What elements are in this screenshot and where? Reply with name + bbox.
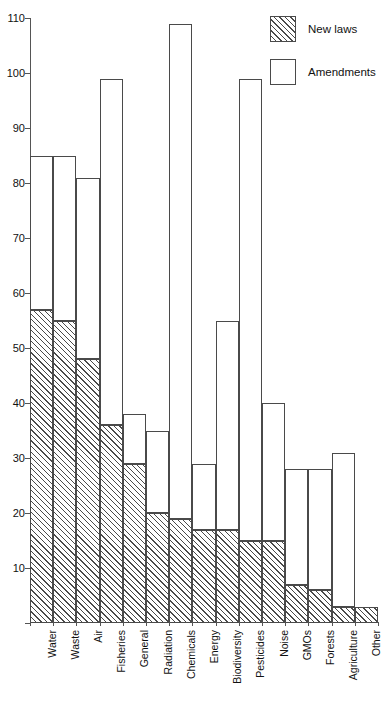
bar-segment-new-laws[interactable] xyxy=(100,425,123,623)
x-axis-category-label-text: Water xyxy=(46,630,58,658)
bar-segment-amendments[interactable] xyxy=(192,464,215,530)
bar-segment-amendments[interactable] xyxy=(285,469,308,585)
x-axis-tick-mark xyxy=(308,622,309,626)
bar-segment-new-laws[interactable] xyxy=(192,530,215,624)
x-axis-category-label-text: Agriculture xyxy=(347,630,359,680)
bar-segment-new-laws[interactable] xyxy=(123,464,146,624)
bar-segment-amendments[interactable] xyxy=(30,156,53,310)
bar-segment-amendments[interactable] xyxy=(146,431,169,514)
x-axis-tick-mark xyxy=(100,622,101,626)
x-axis-category-label-text: GMOs xyxy=(301,630,313,660)
bar-segment-amendments[interactable] xyxy=(332,453,355,607)
x-axis-category-label: Forests xyxy=(324,630,336,665)
stacked-bar-chart: 102030405060708090100110 WaterWasteAirFi… xyxy=(0,0,384,721)
bar-segment-amendments[interactable] xyxy=(123,414,146,464)
bar-group[interactable] xyxy=(169,18,192,623)
x-axis-tick-mark xyxy=(76,622,77,626)
bar-segment-new-laws[interactable] xyxy=(169,519,192,624)
legend-item-amendments: Amendments xyxy=(270,59,380,85)
x-axis-category-label-text: Fisheries xyxy=(115,630,127,673)
x-axis-category-label: Water xyxy=(46,630,58,658)
bar-group[interactable] xyxy=(100,18,123,623)
bar-segment-amendments[interactable] xyxy=(169,24,192,519)
bar-group[interactable] xyxy=(30,18,53,623)
bar-group[interactable] xyxy=(285,18,308,623)
x-axis-category-label: Air xyxy=(92,630,104,643)
bar-segment-new-laws[interactable] xyxy=(216,530,239,624)
x-axis-tick-mark xyxy=(285,622,286,626)
bar-group[interactable] xyxy=(216,18,239,623)
y-axis-tick-label: 60 xyxy=(13,287,25,299)
x-axis-tick-mark xyxy=(332,622,333,626)
x-axis-category-label-text: Waste xyxy=(69,630,81,659)
bar-group[interactable] xyxy=(262,18,285,623)
bar-segment-new-laws[interactable] xyxy=(355,607,378,624)
empty-square-icon xyxy=(270,59,296,85)
bar-segment-new-laws[interactable] xyxy=(53,321,76,624)
bar-segment-new-laws[interactable] xyxy=(146,513,169,623)
bar-segment-amendments[interactable] xyxy=(308,469,331,590)
legend-item-label: New laws xyxy=(308,23,357,35)
x-axis-tick-mark xyxy=(123,622,124,626)
y-axis-tick-label: 110 xyxy=(7,12,25,24)
bar-segment-amendments[interactable] xyxy=(100,79,123,426)
bar-segment-amendments[interactable] xyxy=(216,321,239,530)
x-axis-category-label: Agriculture xyxy=(347,630,359,680)
x-axis-category-label-text: Noise xyxy=(278,630,290,657)
bar-group[interactable] xyxy=(146,18,169,623)
y-axis-tick-label: 20 xyxy=(13,507,25,519)
bar-group[interactable] xyxy=(76,18,99,623)
y-axis-tick-label: 80 xyxy=(13,177,25,189)
x-axis-category-label-text: Air xyxy=(92,630,104,643)
x-axis-category-label-text: Pesticides xyxy=(254,630,266,678)
y-axis-tick-label: 90 xyxy=(13,122,25,134)
x-axis-tick-mark xyxy=(378,622,379,626)
bar-group[interactable] xyxy=(123,18,146,623)
x-axis-tick-mark xyxy=(239,622,240,626)
x-axis-tick-mark xyxy=(192,622,193,626)
bar-group[interactable] xyxy=(308,18,331,623)
x-axis-category-label: General xyxy=(138,630,150,667)
bar-segment-new-laws[interactable] xyxy=(285,585,308,624)
x-axis-category-label-text: General xyxy=(138,630,150,667)
bar-segment-amendments[interactable] xyxy=(262,403,285,541)
bar-segment-new-laws[interactable] xyxy=(262,541,285,624)
x-axis-category-label-text: Chemicals xyxy=(185,630,197,679)
x-axis-category-label: Other xyxy=(370,630,382,656)
x-axis-category-label-text: Forests xyxy=(324,630,336,665)
x-axis-category-label: Waste xyxy=(69,630,81,659)
bar-segment-new-laws[interactable] xyxy=(308,590,331,623)
bar-group[interactable] xyxy=(239,18,262,623)
x-axis-category-label-text: Other xyxy=(370,630,382,656)
bar-group[interactable] xyxy=(53,18,76,623)
x-axis-tick-mark xyxy=(355,622,356,626)
bar-segment-new-laws[interactable] xyxy=(30,310,53,624)
bars-container xyxy=(30,18,378,623)
bar-segment-new-laws[interactable] xyxy=(332,607,355,624)
y-axis-tick-label: 100 xyxy=(7,67,25,79)
x-axis-category-label: Pesticides xyxy=(254,630,266,678)
bar-group[interactable] xyxy=(355,18,378,623)
legend-item-new-laws: New laws xyxy=(270,16,380,42)
chart-legend: New laws Amendments xyxy=(270,16,380,102)
x-axis-category-label-text: Energy xyxy=(208,630,220,663)
bar-group[interactable] xyxy=(332,18,355,623)
x-axis-category-label: GMOs xyxy=(301,630,313,660)
x-axis-category-label: Fisheries xyxy=(115,630,127,673)
y-axis-tick-label: 10 xyxy=(13,562,25,574)
x-axis-tick-mark xyxy=(262,622,263,626)
x-axis-tick-mark xyxy=(53,622,54,626)
x-axis-category-label-text: Radiation xyxy=(162,630,174,674)
bar-segment-amendments[interactable] xyxy=(53,156,76,321)
x-axis-category-label: Noise xyxy=(278,630,290,657)
bar-segment-new-laws[interactable] xyxy=(76,359,99,623)
bar-segment-amendments[interactable] xyxy=(239,79,262,541)
x-axis-category-label: Chemicals xyxy=(185,630,197,679)
y-axis-tick-label: 50 xyxy=(13,342,25,354)
bar-group[interactable] xyxy=(192,18,215,623)
x-axis-category-label: Radiation xyxy=(162,630,174,674)
legend-item-label: Amendments xyxy=(308,66,376,78)
bar-segment-amendments[interactable] xyxy=(76,178,99,360)
x-axis-tick-mark xyxy=(216,622,217,626)
bar-segment-new-laws[interactable] xyxy=(239,541,262,624)
